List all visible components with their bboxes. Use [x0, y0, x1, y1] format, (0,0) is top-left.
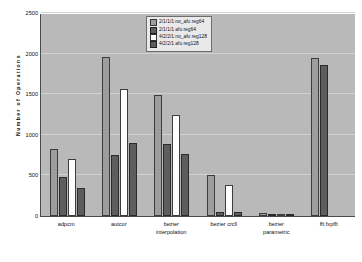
- bar[interactable]: [320, 65, 328, 216]
- bar[interactable]: [234, 212, 242, 216]
- bar[interactable]: [225, 185, 233, 216]
- y-tick-label: 2000: [16, 52, 38, 58]
- legend-item[interactable]: 2/1/1/1 no_afu reg64: [150, 19, 207, 26]
- bar[interactable]: [277, 214, 285, 216]
- bar-group: [303, 14, 355, 216]
- legend-label: 4/2/2/1 no_afu reg128: [159, 35, 207, 40]
- legend-swatch-icon: [150, 19, 157, 26]
- bar[interactable]: [120, 89, 128, 216]
- x-tick-label-line: adpcm: [40, 220, 93, 228]
- x-tick-label-line: fft fxpfft: [303, 220, 356, 228]
- legend-swatch-icon: [150, 41, 157, 48]
- bar[interactable]: [102, 57, 110, 216]
- x-tick-label-line: bezier: [250, 220, 303, 228]
- legend-label: 2/1/1/1 no_afu reg64: [159, 20, 204, 25]
- x-tick-label-line: autcor: [93, 220, 146, 228]
- x-tick-label: bezierinterpolation: [145, 220, 198, 236]
- legend-item[interactable]: 4/2/2/1 no_afu reg128: [150, 34, 207, 41]
- legend-item[interactable]: 2/1/1/1 afu reg64: [150, 26, 207, 33]
- gridline: [41, 12, 355, 13]
- bar[interactable]: [216, 212, 224, 216]
- x-tick-label-line: interpolation: [145, 228, 198, 236]
- bar[interactable]: [207, 175, 215, 216]
- bar-group: [41, 14, 93, 216]
- bar[interactable]: [268, 214, 276, 216]
- x-tick-label: fft fxpfft: [303, 220, 356, 236]
- bar[interactable]: [163, 144, 171, 216]
- bar-chart: Number of Operations 0500100015002000250…: [0, 0, 362, 262]
- bar[interactable]: [77, 188, 85, 216]
- legend-label: 2/1/1/1 afu reg64: [159, 28, 196, 33]
- bar[interactable]: [259, 213, 267, 216]
- chart-legend: 2/1/1/1 no_afu reg642/1/1/1 afu reg644/2…: [146, 16, 212, 52]
- legend-label: 4/2/2/1 afu reg128: [159, 42, 199, 47]
- bar[interactable]: [172, 115, 180, 217]
- x-tick-label: adpcm: [40, 220, 93, 236]
- legend-item[interactable]: 4/2/2/1 afu reg128: [150, 41, 207, 48]
- legend-swatch-icon: [150, 34, 157, 41]
- x-tick-label-line: bezier: [145, 220, 198, 228]
- bar[interactable]: [129, 143, 137, 216]
- bar[interactable]: [154, 95, 162, 216]
- legend-swatch-icon: [150, 27, 157, 34]
- y-tick-label: 0: [16, 214, 38, 220]
- bar[interactable]: [68, 159, 76, 216]
- bar-group: [250, 14, 302, 216]
- bar[interactable]: [59, 177, 67, 216]
- x-tick-label-line: bezier crcll: [198, 220, 251, 228]
- bar-group: [93, 14, 145, 216]
- y-tick-label: 1500: [16, 92, 38, 98]
- bar[interactable]: [111, 155, 119, 216]
- bar[interactable]: [286, 214, 294, 216]
- x-axis-tick-labels: adpcmautcorbezierinterpolationbezier crc…: [40, 220, 355, 236]
- y-axis-tick-labels: 05001000150020002500: [12, 0, 38, 262]
- x-tick-label: autcor: [93, 220, 146, 236]
- x-tick-label: bezier crcll: [198, 220, 251, 236]
- x-tick-label: bezierparametric: [250, 220, 303, 236]
- bar[interactable]: [311, 58, 319, 216]
- bar[interactable]: [181, 154, 189, 216]
- y-tick-label: 1000: [16, 133, 38, 139]
- x-tick-label-line: parametric: [250, 228, 303, 236]
- y-tick-label: 500: [16, 173, 38, 179]
- y-tick-label: 2500: [16, 11, 38, 17]
- bar[interactable]: [50, 149, 58, 216]
